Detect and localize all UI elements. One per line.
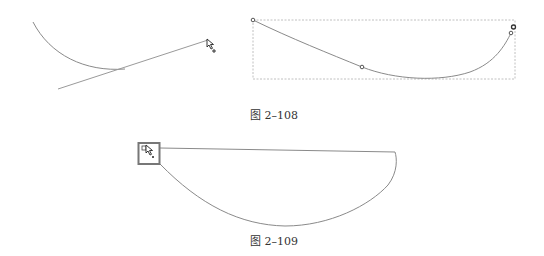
pointer-cursor-icon bbox=[207, 39, 216, 53]
tangent-handle-line[interactable] bbox=[58, 40, 208, 89]
node-handle[interactable] bbox=[360, 65, 364, 69]
plus-sign-icon bbox=[212, 49, 216, 53]
illustration-canvas bbox=[0, 0, 544, 256]
curve-path bbox=[33, 22, 125, 69]
panel-curve-with-tangent bbox=[33, 22, 216, 89]
node-handle[interactable] bbox=[512, 25, 516, 29]
node-handle[interactable] bbox=[251, 18, 255, 22]
panel-closing-curve bbox=[139, 143, 397, 226]
figure-caption: 图 2–108 bbox=[250, 106, 298, 122]
pointer-cursor-icon bbox=[146, 145, 154, 158]
curve-path bbox=[160, 152, 396, 226]
panel-curve-in-bounding-box bbox=[251, 18, 515, 79]
start-node-handle[interactable] bbox=[142, 146, 146, 150]
close-path-dot-icon bbox=[152, 156, 154, 158]
curve-path bbox=[253, 20, 511, 78]
straight-segment bbox=[160, 148, 395, 152]
figure-caption: 图 2–109 bbox=[250, 232, 298, 248]
node-handle[interactable] bbox=[509, 31, 513, 35]
